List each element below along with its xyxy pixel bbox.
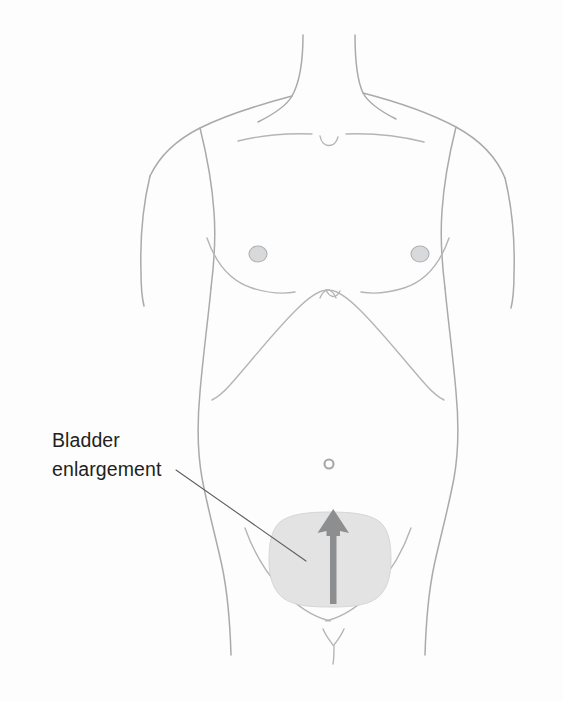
right-axilla-line: [441, 127, 456, 288]
neck-right-line: [355, 35, 396, 119]
clavicle-notch-icon: [320, 136, 338, 146]
left-flank-line: [198, 288, 231, 655]
arrow-shaft: [330, 528, 337, 604]
left-costal-margin-line: [212, 290, 336, 400]
right-arm-outer-line: [505, 178, 514, 308]
callout-label-line2: enlargement: [52, 458, 162, 480]
right-flank-line: [425, 288, 458, 655]
left-shoulder-line: [150, 96, 292, 176]
left-pectoral-crease: [207, 238, 295, 293]
right-nipple-icon: [411, 246, 429, 262]
genital-marking-icon: [323, 629, 344, 664]
illustration-canvas: Bladder enlargement: [0, 0, 563, 701]
navel-icon: [325, 460, 334, 469]
right-clavicle-line: [346, 134, 424, 142]
anatomy-illustration: Bladder enlargement: [0, 0, 563, 701]
right-costal-margin-line: [320, 290, 444, 400]
callout-label-line1: Bladder: [52, 429, 120, 451]
right-pectoral-crease: [361, 238, 449, 293]
neck-left-line: [258, 35, 303, 122]
left-clavicle-line: [238, 134, 312, 141]
left-nipple-icon: [249, 246, 267, 262]
left-axilla-line: [200, 128, 215, 288]
callout-leader-line: [176, 470, 306, 561]
left-arm-outer-line: [141, 176, 150, 306]
